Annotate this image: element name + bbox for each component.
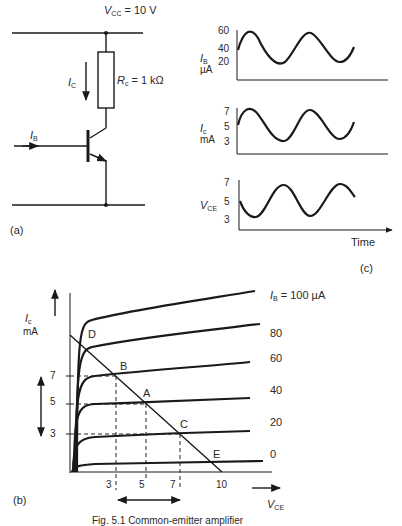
tick: 5 xyxy=(224,196,230,207)
panel-c-label: (c) xyxy=(360,262,373,274)
tick: 20 xyxy=(218,56,230,67)
waveforms-panel: IB µA 60 40 20 Ic mA 7 5 3 VCE 7 5 3 Tim… xyxy=(200,25,392,274)
ic-unit: mA xyxy=(200,134,215,145)
point-b: B xyxy=(120,360,127,372)
figure-caption: Fig. 5.1 Common-emitter amplifier xyxy=(92,515,244,526)
curve-label-60: 60 xyxy=(270,352,282,364)
time-label: Time xyxy=(351,236,375,248)
panel-b-label: (b) xyxy=(13,494,26,506)
curve-0uA xyxy=(72,461,263,472)
curve-60uA xyxy=(75,362,250,472)
collector-lead xyxy=(90,128,106,138)
ib-unit: µA xyxy=(200,64,213,75)
ic-waveform xyxy=(238,109,354,141)
tick: 3 xyxy=(224,214,230,225)
figure-canvas: VCC= 10 V Rc= 1 kΩ IC IB (a) xyxy=(0,0,402,526)
ib-label: IB xyxy=(30,129,38,142)
point-e: E xyxy=(213,448,220,460)
vce-axis-label: VCE xyxy=(267,498,284,511)
point-c: C xyxy=(180,418,188,430)
curve-label-0: 0 xyxy=(270,448,276,460)
ic-axis-label: Ic xyxy=(25,312,32,325)
curve-100uA xyxy=(77,291,255,472)
panel-a-label: (a) xyxy=(10,224,23,236)
point-d: D xyxy=(88,328,96,340)
rc-label: Rc= 1 kΩ xyxy=(117,74,164,87)
tick: 7 xyxy=(224,177,230,188)
y-tick: 3 xyxy=(50,428,56,439)
ground-node xyxy=(104,203,108,207)
characteristics-panel: Ic mA 7 5 3 D B A C E xyxy=(13,289,326,511)
curve-label-100: IB= 100 µA xyxy=(270,289,326,302)
ic-axis-unit: mA xyxy=(23,326,38,337)
resistor-rc xyxy=(98,52,114,108)
circuit-panel: VCC= 10 V Rc= 1 kΩ IC IB (a) xyxy=(10,4,164,236)
vce-wave-label: VCE xyxy=(200,199,217,212)
y-tick: 7 xyxy=(50,370,56,381)
point-a: A xyxy=(143,387,151,399)
curve-label-80: 80 xyxy=(270,327,282,339)
curve-20uA xyxy=(73,431,250,472)
vcc-label: VCC= 10 V xyxy=(104,4,157,17)
tick: 60 xyxy=(218,25,230,36)
tick: 5 xyxy=(224,121,230,132)
curve-label-20: 20 xyxy=(270,416,282,428)
x-tick: 5 xyxy=(139,479,145,490)
ib-waveform xyxy=(238,32,354,64)
y-tick: 5 xyxy=(50,396,56,407)
emitter-arrow-icon xyxy=(90,154,106,161)
vce-waveform xyxy=(240,184,355,217)
x-tick: 10 xyxy=(216,479,228,490)
tick: 3 xyxy=(224,136,230,147)
tick: 7 xyxy=(224,106,230,117)
curve-label-40: 40 xyxy=(270,384,282,396)
x-tick: 3 xyxy=(106,479,112,490)
ic-label: IC xyxy=(68,76,76,89)
tick: 40 xyxy=(218,43,230,54)
x-tick: 7 xyxy=(170,479,176,490)
